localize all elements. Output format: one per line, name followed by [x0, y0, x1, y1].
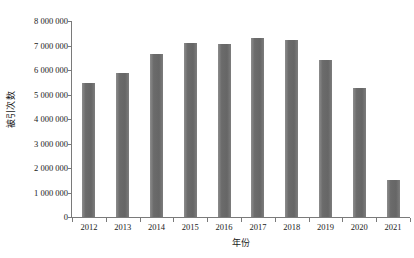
bar — [353, 88, 366, 217]
x-axis-tick-label: 2014 — [140, 222, 174, 233]
x-axis-title-label: 年份 — [232, 238, 250, 248]
x-axis-tick-label: 2015 — [173, 222, 207, 233]
y-axis-tick-labels: 01 000 0002 000 0003 000 0004 000 0005 0… — [16, 0, 72, 232]
x-axis-title: 年份 — [72, 236, 410, 249]
bar — [319, 60, 332, 217]
bar — [82, 83, 95, 217]
bar — [116, 73, 129, 217]
bar — [184, 43, 197, 217]
y-axis-tick-label: 6 000 000 — [34, 66, 68, 75]
y-axis-tick-label: 2 000 000 — [34, 164, 68, 173]
bar — [218, 44, 231, 217]
x-axis-tick-label: 2017 — [241, 222, 275, 233]
x-axis-tick-label: 2016 — [207, 222, 241, 233]
bars-layer — [72, 21, 410, 217]
y-axis-tick-label: 1 000 000 — [34, 188, 68, 197]
y-axis-tick-label: 3 000 000 — [34, 139, 68, 148]
x-axis-tick-label: 2021 — [376, 222, 410, 233]
y-axis-tick-label: 8 000 000 — [34, 17, 68, 26]
x-axis-tick-label: 2020 — [342, 222, 376, 233]
plot-area — [72, 21, 410, 217]
bar — [387, 180, 400, 217]
bar — [150, 54, 163, 217]
x-axis-tick-mark — [410, 218, 411, 222]
x-axis-tick-label: 2013 — [106, 222, 140, 233]
y-axis-tick-label: 7 000 000 — [34, 41, 68, 50]
bar — [251, 38, 264, 217]
bar-chart-figure: 被引次数 01 000 0002 000 0003 000 0004 000 0… — [0, 0, 414, 258]
y-axis-tick-label: 5 000 000 — [34, 90, 68, 99]
x-axis-tick-label: 2018 — [275, 222, 309, 233]
bar — [285, 40, 298, 217]
x-axis-tick-label: 2019 — [309, 222, 343, 233]
x-axis-tick-label: 2012 — [72, 222, 106, 233]
x-axis-tick-labels: 2012201320142015201620172018201920202021 — [72, 222, 410, 236]
y-axis-tick-label: 4 000 000 — [34, 115, 68, 124]
